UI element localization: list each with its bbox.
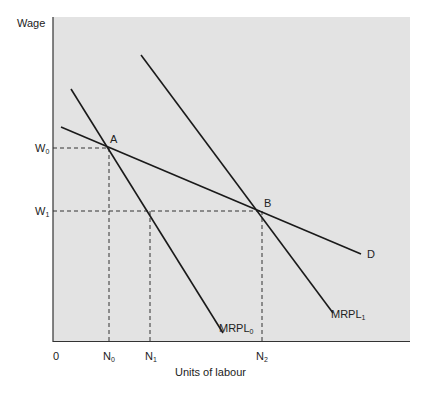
mrpl1-text: MRPL: [331, 308, 362, 320]
point-b-label: B: [264, 197, 271, 209]
w0-sub: 0: [45, 148, 49, 155]
diagram-canvas: [0, 0, 428, 393]
point-a-label: A: [110, 133, 117, 145]
mrpl0-label: MRPL0: [219, 322, 253, 338]
mrpl0-sub: 0: [250, 328, 254, 335]
w1-sub: 1: [45, 211, 49, 218]
curve-d-label: D: [367, 248, 375, 260]
mrpl1-label: MRPL1: [331, 308, 365, 324]
w0-label: W0: [35, 142, 49, 158]
n1-text: N: [145, 350, 153, 362]
w0-text: W: [35, 142, 45, 154]
x-axis-label: Units of labour: [175, 366, 246, 378]
mrpl0-text: MRPL: [219, 322, 250, 334]
origin-label: 0: [53, 350, 59, 362]
n1-sub: 1: [153, 356, 157, 363]
n0-text: N: [103, 350, 111, 362]
n0-label: N0: [103, 350, 115, 366]
w1-text: W: [35, 205, 45, 217]
n0-sub: 0: [111, 356, 115, 363]
n2-label: N2: [256, 350, 268, 366]
n2-sub: 2: [264, 356, 268, 363]
plot-area: [53, 17, 410, 341]
n2-text: N: [256, 350, 264, 362]
mrpl1-sub: 1: [362, 314, 366, 321]
n1-label: N1: [145, 350, 157, 366]
w1-label: W1: [35, 205, 49, 221]
y-axis-label: Wage: [17, 17, 45, 29]
